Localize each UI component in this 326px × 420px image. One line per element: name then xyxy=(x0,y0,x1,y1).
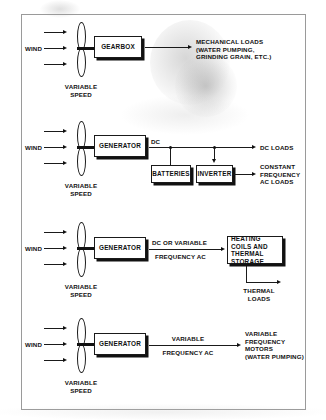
variable-frequency-motors-label: VARIABLE FREQUENCY MOTORS (WATER PUMPING… xyxy=(245,330,304,360)
wind-label-4: WIND xyxy=(25,341,42,349)
wind-arrow-head-bot-4 xyxy=(63,358,67,362)
wind-turbine-rotor-4 xyxy=(72,318,90,373)
vfm-feed-line xyxy=(149,345,238,346)
vfm-line-label-top: VARIABLE xyxy=(155,335,221,343)
vfm-feed-arrow xyxy=(237,343,241,347)
rotor-caption-4: VARIABLE SPEED xyxy=(56,379,106,394)
box-generator-4[interactable]: GENERATOR xyxy=(94,333,146,355)
vfm-line-label-bottom: FREQUENCY AC xyxy=(155,349,221,357)
wind-arrow-line-bot-4 xyxy=(44,360,64,361)
diagram-canvas: WIND VARIABLE SPEED GEARBOX MECHANICAL L… xyxy=(0,0,326,420)
turbine-blade-lower xyxy=(77,344,86,373)
box-generator-4-label: GENERATOR xyxy=(95,340,145,348)
wind-arrow-head-mid-4 xyxy=(63,342,67,346)
wind-arrow-line-top-4 xyxy=(44,328,64,329)
section-variable-frequency-motors: WIND VARIABLE SPEED GENERATOR VARIABLE F… xyxy=(0,0,326,420)
wind-arrow-line-mid-4 xyxy=(44,344,64,345)
wind-arrow-head-top-4 xyxy=(63,326,67,330)
